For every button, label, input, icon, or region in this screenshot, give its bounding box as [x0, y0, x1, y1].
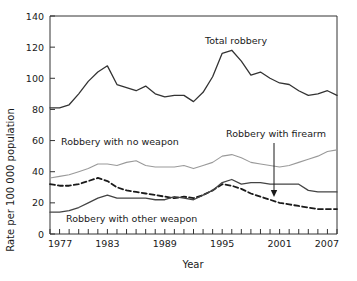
x-tick-label: 1983 — [95, 238, 119, 249]
x-tick-label: 1995 — [210, 238, 234, 249]
series-line — [50, 178, 337, 209]
y-axis-tick-labels: 020406080100120140 — [26, 11, 44, 240]
chart-canvas: 020406080100120140 197719831989199520012… — [0, 0, 357, 281]
series-annotations: Total robberyRobbery with no weaponRobbe… — [61, 35, 326, 224]
x-tick-label: 1989 — [153, 238, 177, 249]
other-weapon-label: Robbery with other weapon — [66, 213, 197, 224]
y-tick-label: 80 — [32, 104, 44, 115]
y-tick-label: 140 — [26, 11, 44, 22]
y-tick-label: 120 — [26, 42, 44, 53]
y-tick-label: 60 — [32, 135, 44, 146]
series-line — [50, 150, 337, 178]
no-weapon-label: Robbery with no weapon — [61, 136, 179, 147]
firearm-arrow — [271, 143, 277, 197]
total-robbery-label: Total robbery — [204, 35, 268, 46]
y-tick-label: 20 — [32, 197, 44, 208]
y-axis-title: Rate per 100 000 population — [5, 108, 16, 252]
robbery-rate-line-chart: 020406080100120140 197719831989199520012… — [0, 0, 357, 281]
x-tick-label: 2007 — [315, 238, 339, 249]
y-tick-label: 100 — [26, 73, 44, 84]
series-line — [50, 50, 337, 108]
x-axis-tick-labels: 197719831989199520012007 — [48, 238, 339, 249]
x-tick-label: 2001 — [268, 238, 292, 249]
firearm-label: Robbery with firearm — [226, 128, 326, 139]
y-tick-label: 40 — [32, 166, 44, 177]
x-axis-ticks — [50, 229, 337, 234]
x-axis-title: Year — [181, 259, 204, 270]
y-axis-ticks — [50, 16, 55, 234]
y-tick-label: 0 — [38, 229, 44, 240]
x-tick-label: 1977 — [48, 238, 72, 249]
series-line — [50, 180, 337, 213]
plot-frame — [50, 16, 337, 234]
